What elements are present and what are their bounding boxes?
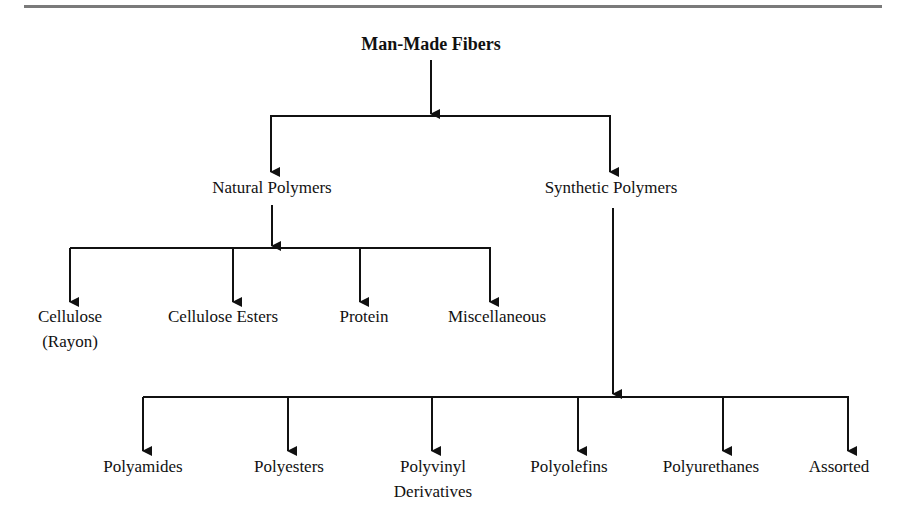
node-synthetic-polymers: Synthetic Polymers [545,175,678,200]
node-cellulose-esters: Cellulose Esters [168,304,278,329]
node-polyvinyl-line2: Derivatives [394,479,472,504]
node-protein: Protein [339,304,388,329]
node-polyamides: Polyamides [103,454,182,479]
node-polyolefins: Polyolefins [530,454,607,479]
node-natural-polymers: Natural Polymers [212,175,331,200]
node-polyesters: Polyesters [254,454,324,479]
node-polyvinyl-line1: Polyvinyl [394,454,472,479]
node-assorted: Assorted [809,454,869,479]
node-cellulose-line2: (Rayon) [38,329,102,354]
connector-lines [0,0,907,525]
node-polyurethanes: Polyurethanes [663,454,759,479]
node-miscellaneous: Miscellaneous [448,304,546,329]
node-polyvinyl-derivatives: Polyvinyl Derivatives [394,454,472,504]
node-cellulose: Cellulose (Rayon) [38,304,102,354]
node-cellulose-line1: Cellulose [38,304,102,329]
node-root: Man-Made Fibers [361,32,500,57]
